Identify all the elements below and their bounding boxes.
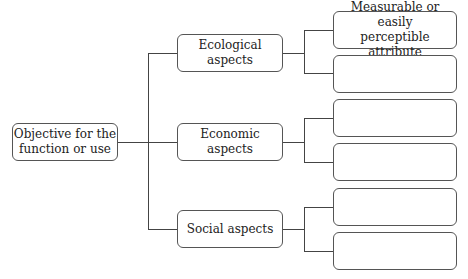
connector-root-trunk <box>118 142 148 143</box>
aspect-node-social: Social aspects <box>177 210 283 248</box>
root-label-line2: function or use <box>14 142 116 157</box>
connector-ecological-bracket <box>283 53 304 54</box>
bracket-ecological <box>304 30 305 74</box>
root-node-objective: Objective for the function or use <box>12 123 118 161</box>
connector-trunk-ecological <box>148 53 177 54</box>
aspect-label-ecological: Ecological aspects <box>178 38 282 68</box>
bracket-social <box>304 207 305 252</box>
root-label-line1: Objective for the <box>14 127 116 142</box>
aspect-label-economic: Economic aspects <box>178 127 282 157</box>
aspect-node-economic: Economic aspects <box>177 123 283 161</box>
bracket-economic-top <box>304 118 333 119</box>
attribute-node-5 <box>333 188 457 226</box>
attribute-node-6 <box>333 232 457 270</box>
attribute-node-3 <box>333 99 457 137</box>
aspect-label-social: Social aspects <box>187 222 274 237</box>
bracket-social-top <box>304 207 333 208</box>
attribute-1-line1: Measurable or easily <box>334 0 456 30</box>
attribute-node-1: Measurable or easily perceptible attribu… <box>333 11 457 49</box>
connector-economic-bracket <box>283 142 304 143</box>
connector-trunk-social <box>148 229 177 230</box>
attribute-node-4 <box>333 143 457 181</box>
bracket-economic-bottom <box>304 162 333 163</box>
attribute-node-2 <box>333 55 457 93</box>
connector-trunk-economic <box>148 142 177 143</box>
aspect-node-ecological: Ecological aspects <box>177 34 283 72</box>
connector-social-bracket <box>283 229 304 230</box>
bracket-ecological-bottom <box>304 73 333 74</box>
bracket-ecological-top <box>304 30 333 31</box>
bracket-social-bottom <box>304 251 333 252</box>
bracket-economic <box>304 118 305 163</box>
